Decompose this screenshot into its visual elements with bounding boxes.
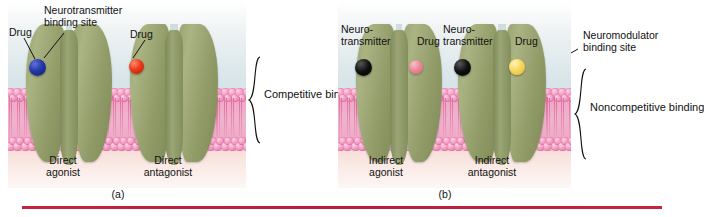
phospholipid [565, 88, 571, 151]
receptor-direct-antagonist [130, 24, 218, 162]
receptor-stalk [165, 30, 183, 165]
molecule-neurotransmitter-1 [355, 59, 372, 76]
molecule-drug-blue [29, 59, 46, 76]
molecule-neurotransmitter-2 [454, 59, 471, 76]
receptor-stalk [390, 30, 407, 165]
label-neurotransmitter-right-b: Neuro- transmitter [443, 24, 493, 47]
brace-noncompetitive-binding [574, 68, 588, 160]
receptor-stalk [60, 30, 77, 165]
receptor-stalk [493, 30, 511, 165]
caption-panel-b: (b) [425, 188, 465, 200]
label-direct-agonist: Direct agonist [34, 155, 92, 178]
brace-competitive-binding [248, 56, 262, 144]
molecule-drug-red [129, 59, 144, 74]
molecule-drug-pink [409, 60, 423, 74]
label-indirect-agonist: Indirect agonist [356, 155, 416, 178]
label-neurotransmitter-binding-site-a: Neurotransmitter binding site [44, 5, 122, 28]
caption-panel-a: (a) [98, 188, 138, 200]
receptor-lobe-right [178, 24, 218, 162]
label-noncompetitive-binding: Noncompetitive binding [590, 101, 676, 114]
label-indirect-antagonist: Indirect antagonist [452, 155, 532, 178]
label-drug-right-b: Drug [515, 36, 538, 48]
footer-rule [22, 206, 662, 209]
receptor-direct-agonist [26, 24, 112, 162]
label-drug-left-a: Drug [9, 27, 32, 39]
label-neuromodulator-binding-site: Neuromodulator binding site [583, 30, 658, 53]
molecule-drug-yellow [509, 59, 525, 75]
label-drug-left-b: Drug [417, 36, 440, 48]
label-direct-antagonist: Direct antagonist [131, 155, 205, 178]
label-competitive-binding: Competitive binding [264, 88, 334, 101]
receptor-lobe-right [72, 24, 112, 162]
label-neurotransmitter-left-b: Neuro- transmitter [341, 24, 391, 47]
phospholipid [243, 88, 246, 151]
label-drug-right-a: Drug [130, 29, 153, 41]
